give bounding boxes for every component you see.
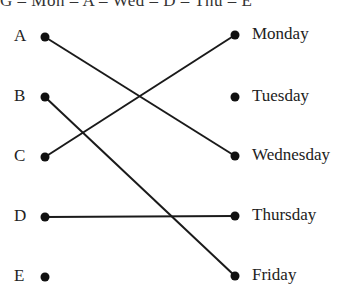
label-tuesday: Tuesday [252, 86, 309, 106]
label-friday: Friday [252, 265, 296, 285]
label-b: B [14, 86, 25, 106]
dot-thursday [231, 212, 240, 221]
connection-lines [45, 35, 235, 276]
label-c: C [14, 146, 25, 166]
label-wednesday: Wednesday [252, 145, 330, 165]
label-monday: Monday [252, 24, 309, 44]
label-d: D [14, 206, 26, 226]
line-d-thursday [45, 216, 235, 217]
dot-tuesday [231, 93, 240, 102]
label-e: E [14, 266, 24, 286]
dot-wednesday [231, 152, 240, 161]
dot-b [41, 93, 50, 102]
label-thursday: Thursday [252, 205, 316, 225]
dot-a [41, 33, 50, 42]
label-a: A [14, 26, 26, 46]
dot-friday [231, 272, 240, 281]
line-b-friday [45, 97, 235, 276]
dot-monday [231, 31, 240, 40]
dot-c [41, 153, 50, 162]
left-dots [41, 33, 50, 282]
dot-e [41, 273, 50, 282]
dot-d [41, 213, 50, 222]
right-dots [231, 31, 240, 281]
